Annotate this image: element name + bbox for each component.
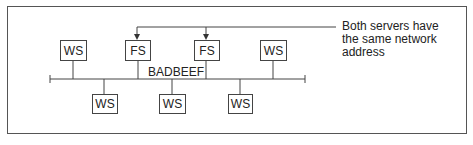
file-server-node: FS	[125, 40, 151, 61]
node-label: WS	[163, 97, 182, 111]
node-label: WS	[95, 97, 114, 111]
node-label: WS	[231, 97, 250, 111]
node-label: WS	[64, 44, 83, 58]
node-label: FS	[199, 44, 214, 58]
workstation-node: WS	[92, 94, 118, 114]
workstation-node: WS	[60, 40, 87, 61]
callout-line-text: address	[342, 46, 439, 59]
node-label: FS	[130, 44, 145, 58]
network-address-label: BADBEEF	[148, 65, 204, 79]
callout-note: Both servers have the same network addre…	[342, 20, 439, 59]
workstation-node: WS	[260, 40, 287, 61]
workstation-node: WS	[228, 94, 253, 114]
workstation-node: WS	[159, 94, 186, 114]
file-server-node: FS	[194, 40, 220, 61]
node-label: WS	[264, 44, 283, 58]
